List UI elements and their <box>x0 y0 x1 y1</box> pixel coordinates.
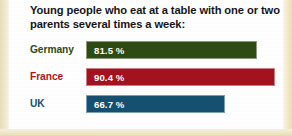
infographic-card: Young people who eat at a table with one… <box>0 0 292 136</box>
bar-germany: 81.5 % <box>86 41 257 59</box>
bar-track-france: 90.4 % <box>86 68 280 86</box>
bar-track-germany: 81.5 % <box>86 41 280 59</box>
content-panel: Young people who eat at a table with one… <box>9 0 283 129</box>
bar-uk: 66.7 % <box>86 95 225 113</box>
bar-value-france: 90.4 % <box>94 69 124 87</box>
category-label-germany: Germany <box>30 41 74 59</box>
bar-france: 90.4 % <box>86 68 275 86</box>
chart-row-uk: UK 66.7 % <box>30 95 280 113</box>
chart-title: Young people who eat at a table with one… <box>30 3 280 32</box>
chart-row-germany: Germany 81.5 % <box>30 41 280 59</box>
bar-value-germany: 81.5 % <box>94 42 124 60</box>
bar-track-uk: 66.7 % <box>86 95 280 113</box>
category-label-france: France <box>30 68 63 86</box>
chart-row-france: France 90.4 % <box>30 68 280 86</box>
category-label-uk: UK <box>30 95 45 113</box>
card-bottom-border <box>0 129 292 136</box>
bar-value-uk: 66.7 % <box>94 96 124 114</box>
bar-chart: Germany 81.5 % France 90.4 % UK <box>30 41 280 122</box>
